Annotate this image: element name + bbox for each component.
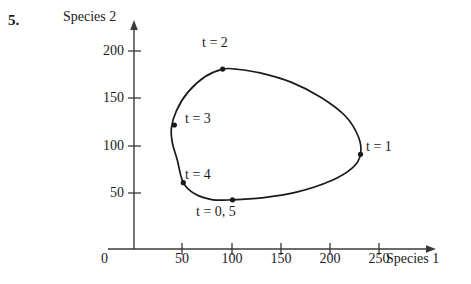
- x-tick-label-200: 200: [310, 252, 350, 266]
- x-tick-label-150: 150: [261, 252, 301, 266]
- annotation-t3: t = 3: [185, 112, 211, 126]
- x-tick-label-250: 250: [359, 252, 399, 266]
- y-tick-label-50: 50: [78, 186, 124, 200]
- x-tick-label-50: 50: [162, 252, 202, 266]
- y-axis: [130, 20, 138, 249]
- y-axis-label: Species 2: [63, 10, 116, 24]
- annotation-t1: t = 1: [366, 140, 392, 154]
- x-tick-label-100: 100: [212, 252, 252, 266]
- marked-point: [172, 122, 177, 127]
- figure-container: 5. Species 2 Species 1 0 50 100 150 200 …: [0, 0, 471, 284]
- origin-label: 0: [101, 252, 108, 266]
- annotation-t4: t = 4: [185, 168, 211, 182]
- marked-point: [358, 152, 363, 157]
- y-tick-label-150: 150: [78, 91, 124, 105]
- annotation-t0-t5: t = 0, 5: [196, 205, 236, 219]
- annotation-t2: t = 2: [202, 36, 228, 50]
- y-tick-label-100: 100: [78, 139, 124, 153]
- phase-plane-plot: [0, 0, 471, 284]
- problem-number: 5.: [8, 13, 19, 28]
- marked-point: [230, 197, 235, 202]
- marked-point: [220, 67, 225, 72]
- y-tick-label-200: 200: [78, 44, 124, 58]
- marked-points: [172, 67, 363, 203]
